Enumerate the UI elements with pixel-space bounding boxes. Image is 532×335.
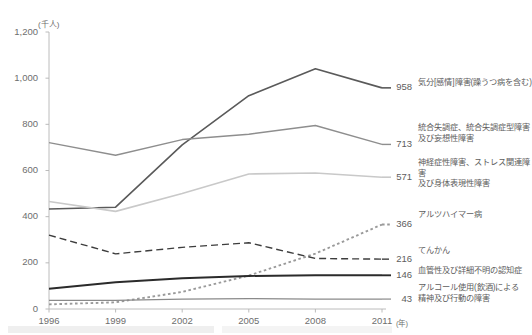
series-line-1 (49, 125, 382, 155)
series-end-value: 958 (386, 81, 412, 92)
series-name-label: 統合失調症、統合失調症型障害 及び妄想性障害 (418, 123, 530, 144)
x-tick-label: 2005 (229, 315, 269, 326)
x-tick-label: 2008 (295, 315, 335, 326)
x-tick-label: 1996 (29, 315, 69, 326)
x-tick-label: 2002 (162, 315, 202, 326)
series-end-value: 713 (386, 138, 412, 149)
footer-band-left (8, 326, 214, 333)
y-tick-label: 800 (4, 118, 38, 129)
x-axis-unit-label: (年) (396, 317, 408, 328)
y-tick-label: 200 (4, 256, 38, 267)
series-line-2 (49, 173, 382, 211)
y-tick-label: 0 (4, 303, 38, 314)
series-name-label: アルツハイマー病 (418, 210, 482, 221)
series-line-0 (49, 69, 382, 209)
series-line-3 (49, 225, 382, 305)
series-name-label: 血管性及び詳細不明の認知症 (418, 266, 522, 277)
series-line-6 (49, 299, 382, 301)
y-tick-label: 1,000 (4, 72, 38, 83)
series-end-value: 43 (386, 293, 412, 304)
series-name-label: 気分[感情]障害(躁うつ病を含む) (418, 78, 532, 89)
y-tick-label: 400 (4, 210, 38, 221)
series-end-value: 216 (386, 253, 412, 264)
series-end-value: 366 (386, 218, 412, 229)
x-tick-label: 1999 (96, 315, 136, 326)
y-tick-label: 1,200 (4, 26, 38, 37)
series-name-label: アルコール使用(飲酒)による 精神及び行動の障害 (418, 283, 519, 304)
footer-band-right (222, 326, 392, 333)
series-name-label: てんかん (418, 246, 450, 257)
y-tick-label: 600 (4, 164, 38, 175)
chart-root: (千人) 02004006008001,0001,200 19961999200… (0, 0, 532, 335)
series-name-label: 神経症性障害、ストレス関連障害 及び身体表現性障害 (418, 158, 532, 190)
series-end-value: 571 (386, 171, 412, 182)
series-end-value: 146 (386, 269, 412, 280)
series-line-5 (49, 275, 382, 288)
series-line-4 (49, 235, 382, 259)
